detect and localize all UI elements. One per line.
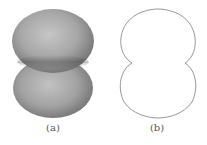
figure: (a) (b) [0, 0, 207, 145]
panel-a-surface [12, 9, 94, 118]
figure-graphics [0, 0, 207, 145]
panel-b-outline [120, 9, 195, 118]
panel-a-caption: (a) [38, 121, 68, 135]
waist-shading [17, 55, 89, 69]
panel-b-caption: (b) [142, 121, 172, 135]
